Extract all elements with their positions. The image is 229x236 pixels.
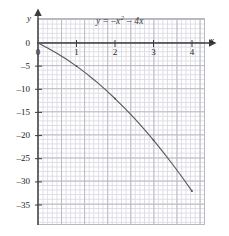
axes-and-curve <box>0 0 229 236</box>
y-tick-label-n10: –10 <box>4 85 30 94</box>
plotted-points <box>76 65 193 192</box>
x-tick-label-1: 1 <box>70 48 84 57</box>
x-tick-label-4: 4 <box>185 48 199 57</box>
point-4 <box>191 190 193 192</box>
y-tick-label-n25: –25 <box>4 154 30 163</box>
point-2 <box>114 98 116 100</box>
curve-path <box>38 43 192 191</box>
graph-figure: y = –x2 – 4x x y 0 –5 –10 –15 –20 –25 –3… <box>0 0 229 236</box>
y-axis-name: y <box>27 13 31 23</box>
equation-term2-sign: – <box>124 16 134 26</box>
y-tick-label-n35: –35 <box>4 201 30 210</box>
x-tick-label-3: 3 <box>147 48 161 57</box>
y-tick-label-n20: –20 <box>4 131 30 140</box>
x-axis-name: x <box>210 35 214 45</box>
equation-term2: 4x <box>134 16 143 26</box>
y-tick-label-n15: –15 <box>4 108 30 117</box>
equation-equals: = <box>100 16 111 26</box>
x-tick-label-2: 2 <box>108 48 122 57</box>
y-tick-label-n30: –30 <box>4 177 30 186</box>
y-tick-label-n5: –5 <box>4 62 30 71</box>
point-1 <box>76 65 78 67</box>
y-tick-label-0: 0 <box>4 39 30 48</box>
origin-label: 0 <box>31 48 45 57</box>
equation-label: y = –x2 – 4x <box>96 14 144 26</box>
point-3 <box>153 139 155 141</box>
